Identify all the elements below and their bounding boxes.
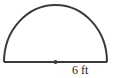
semicircle-diagram bbox=[0, 0, 114, 78]
center-point bbox=[54, 60, 58, 64]
semicircle-arc bbox=[4, 5, 107, 62]
radius-label: 6 ft bbox=[72, 63, 88, 77]
